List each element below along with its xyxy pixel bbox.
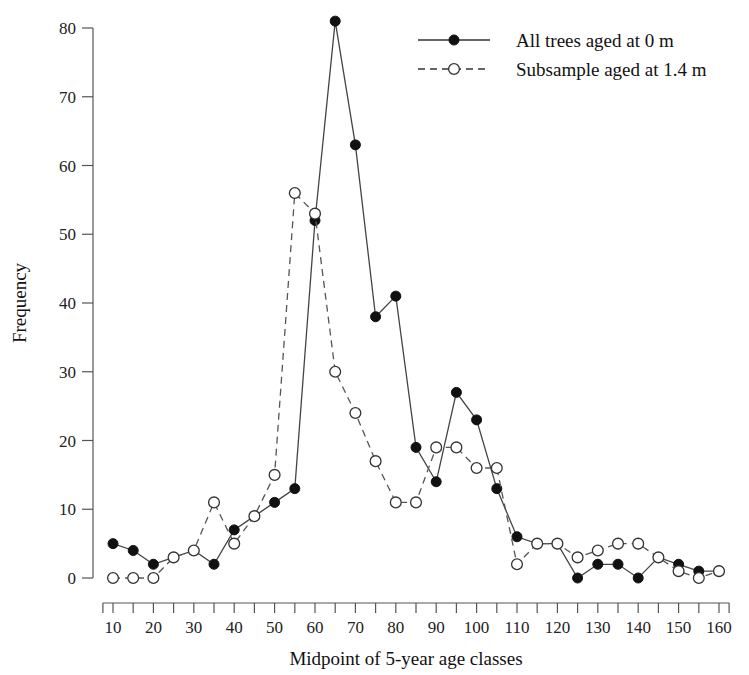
data-point xyxy=(371,312,381,322)
data-point xyxy=(229,525,239,535)
x-axis: 102030405060708090100110120130140150160 xyxy=(103,603,732,637)
data-point xyxy=(431,442,442,453)
data-point xyxy=(552,538,563,549)
y-tick-label: 10 xyxy=(59,500,76,519)
data-point xyxy=(108,539,118,549)
y-tick-label: 30 xyxy=(59,363,76,382)
data-point xyxy=(249,511,260,522)
data-point xyxy=(411,442,421,452)
data-point xyxy=(390,497,401,508)
x-tick-label: 160 xyxy=(706,618,732,637)
data-point xyxy=(451,387,461,397)
data-point xyxy=(572,552,583,563)
x-tick-label: 20 xyxy=(145,618,162,637)
data-point xyxy=(128,573,139,584)
legend-item: Subsample aged at 1.4 m xyxy=(418,59,707,80)
data-point xyxy=(653,552,664,563)
data-point xyxy=(330,16,340,26)
data-point xyxy=(310,208,321,219)
data-point xyxy=(209,559,219,569)
data-point xyxy=(613,559,623,569)
y-tick-label: 0 xyxy=(68,569,77,588)
y-tick-label: 80 xyxy=(59,19,76,38)
data-point xyxy=(391,291,401,301)
data-point xyxy=(633,573,643,583)
legend-marker xyxy=(449,35,459,45)
data-point xyxy=(532,538,543,549)
x-tick-marks xyxy=(103,603,729,613)
x-tick-label: 100 xyxy=(464,618,490,637)
y-tick-label: 60 xyxy=(59,157,76,176)
data-point xyxy=(431,477,441,487)
series-layer xyxy=(108,16,725,583)
x-tick-label: 110 xyxy=(505,618,530,637)
x-tick-label: 30 xyxy=(185,618,202,637)
legend-label: Subsample aged at 1.4 m xyxy=(516,59,707,80)
data-point xyxy=(269,469,280,480)
y-tick-marks xyxy=(82,28,93,578)
data-point xyxy=(108,573,119,584)
data-point xyxy=(714,566,725,577)
x-tick-labels: 102030405060708090100110120130140150160 xyxy=(105,618,732,637)
x-tick-label: 50 xyxy=(266,618,283,637)
data-point xyxy=(512,532,522,542)
series-line xyxy=(113,21,719,578)
data-point xyxy=(633,538,644,549)
y-axis-title: Frequency xyxy=(9,262,30,343)
x-tick-label: 150 xyxy=(666,618,692,637)
series-line xyxy=(113,193,719,578)
data-point xyxy=(350,140,360,150)
x-tick-label: 60 xyxy=(307,618,324,637)
data-point xyxy=(593,559,603,569)
x-tick-label: 90 xyxy=(428,618,445,637)
data-point xyxy=(451,442,462,453)
y-tick-label: 40 xyxy=(59,294,76,313)
x-tick-label: 130 xyxy=(585,618,611,637)
x-tick-label: 120 xyxy=(545,618,571,637)
data-point xyxy=(229,538,240,549)
data-point xyxy=(148,559,158,569)
legend-label: All trees aged at 0 m xyxy=(516,30,674,51)
series-2 xyxy=(108,188,725,584)
chart-legend: All trees aged at 0 mSubsample aged at 1… xyxy=(418,30,707,80)
x-tick-label: 70 xyxy=(347,618,364,637)
data-point xyxy=(512,559,523,570)
y-tick-labels: 01020304050607080 xyxy=(59,19,76,588)
data-point xyxy=(350,408,361,419)
data-point xyxy=(411,497,422,508)
x-tick-label: 140 xyxy=(625,618,651,637)
x-axis-title: Midpoint of 5-year age classes xyxy=(289,648,522,669)
data-point xyxy=(573,573,583,583)
data-point xyxy=(128,546,138,556)
x-tick-label: 10 xyxy=(105,618,122,637)
x-tick-label: 40 xyxy=(226,618,243,637)
data-point xyxy=(370,456,381,467)
data-point xyxy=(693,573,704,584)
data-point xyxy=(270,497,280,507)
y-tick-label: 20 xyxy=(59,432,76,451)
data-point xyxy=(592,545,603,556)
data-point xyxy=(168,552,179,563)
x-tick-label: 80 xyxy=(387,618,404,637)
data-point xyxy=(330,366,341,377)
data-point xyxy=(471,463,482,474)
data-point xyxy=(290,484,300,494)
data-point xyxy=(209,497,220,508)
data-point xyxy=(613,538,624,549)
chart-figure: 01020304050607080 1020304050607080901001… xyxy=(0,0,749,675)
y-tick-label: 50 xyxy=(59,225,76,244)
y-axis: 01020304050607080 xyxy=(59,19,93,588)
legend-marker xyxy=(449,64,460,75)
y-tick-label: 70 xyxy=(59,88,76,107)
data-point xyxy=(673,566,684,577)
data-point xyxy=(289,188,300,199)
data-point xyxy=(472,415,482,425)
legend-item: All trees aged at 0 m xyxy=(418,30,674,51)
data-point xyxy=(188,545,199,556)
frequency-line-chart: 01020304050607080 1020304050607080901001… xyxy=(0,0,749,675)
data-point xyxy=(491,463,502,474)
data-point xyxy=(148,573,159,584)
